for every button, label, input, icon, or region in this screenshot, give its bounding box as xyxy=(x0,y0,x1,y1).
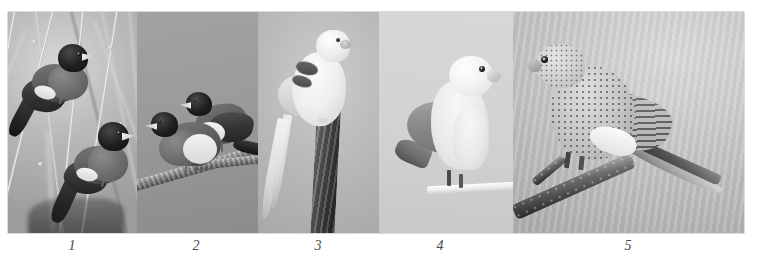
head xyxy=(535,44,585,88)
leg xyxy=(578,156,584,170)
photo-panel-5 xyxy=(513,12,744,233)
eye-highlight xyxy=(481,67,483,69)
panel-caption-5: 5 xyxy=(625,236,632,256)
vent xyxy=(183,134,217,164)
eye-highlight xyxy=(78,53,79,54)
photo-panel-4 xyxy=(379,12,513,233)
underparts xyxy=(453,108,489,170)
body xyxy=(288,49,349,128)
cere-and-bill xyxy=(340,40,351,49)
reed-node xyxy=(38,162,43,166)
panel-caption-4: 4 xyxy=(437,236,444,256)
eye xyxy=(541,56,548,63)
eye-highlight xyxy=(543,58,545,60)
panel-caption-2: 2 xyxy=(193,236,200,256)
bill xyxy=(527,60,541,72)
photo-panel-3 xyxy=(258,12,379,233)
lovebird xyxy=(393,54,509,194)
bill xyxy=(487,70,501,82)
parakeet xyxy=(266,26,372,226)
reed-node xyxy=(108,46,113,50)
caption-row: 1 2 3 4 5 xyxy=(0,236,757,260)
speckled-parakeet xyxy=(527,40,737,230)
photo-panel-2 xyxy=(137,12,258,233)
panel-caption-1: 1 xyxy=(69,236,76,256)
foot xyxy=(318,118,328,123)
photo-panel-1 xyxy=(8,12,137,233)
finch-upper xyxy=(16,42,100,132)
eye xyxy=(336,38,340,42)
panel-caption-3: 3 xyxy=(315,236,322,256)
figure-plate: 1 2 3 4 5 xyxy=(0,0,757,263)
foreground-foliage xyxy=(28,198,124,233)
leg xyxy=(185,162,187,173)
eye-highlight xyxy=(118,132,119,133)
finch-front xyxy=(149,112,231,188)
leg xyxy=(447,170,451,186)
photo-strip xyxy=(8,12,744,233)
leg xyxy=(459,174,463,188)
leg xyxy=(564,152,571,169)
